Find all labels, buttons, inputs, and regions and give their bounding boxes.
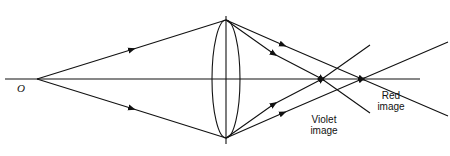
violet-ray-top: [226, 20, 370, 113]
violet-image-label: Violet image: [302, 114, 346, 136]
lens-diagram: [0, 0, 450, 156]
incident-ray-bottom: [37, 79, 226, 138]
red-image-label: Red image: [371, 90, 411, 112]
incident-ray-top: [37, 20, 226, 79]
violet-ray-bottom: [226, 45, 370, 138]
object-label: O: [17, 82, 25, 94]
